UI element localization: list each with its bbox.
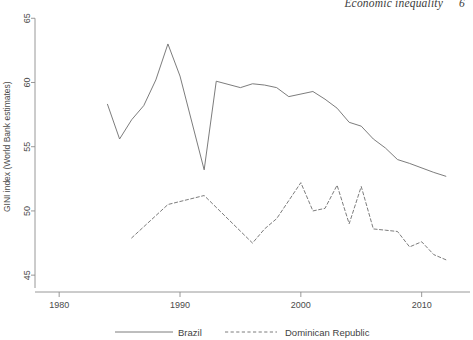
line-chart: 4550556065 1980199020002010 GINI index (… bbox=[0, 0, 473, 340]
legend-label-brazil: Brazil bbox=[178, 327, 202, 338]
series-line-brazil bbox=[108, 44, 446, 176]
x-tick-label: 1990 bbox=[170, 300, 190, 310]
chart-series bbox=[108, 44, 446, 260]
x-axis: 1980199020002010 bbox=[35, 292, 470, 310]
y-tick-label: 50 bbox=[22, 206, 32, 216]
y-axis-title-text: GINI index (World Bank estimates) bbox=[2, 81, 12, 212]
x-tick-label: 2000 bbox=[291, 300, 311, 310]
y-axis: 4550556065 bbox=[22, 13, 35, 288]
y-tick-label: 55 bbox=[22, 142, 32, 152]
legend-label-dominican-republic: Dominican Republic bbox=[285, 327, 370, 338]
chart-legend: BrazilDominican Republic bbox=[115, 327, 370, 338]
y-axis-title: GINI index (World Bank estimates) bbox=[2, 81, 12, 212]
y-tick-label: 60 bbox=[22, 77, 32, 87]
x-tick-label: 1980 bbox=[49, 300, 69, 310]
y-tick-label: 45 bbox=[22, 270, 32, 280]
y-tick-label: 65 bbox=[22, 13, 32, 23]
chart-page: Economic inequality6 4550556065 19801990… bbox=[0, 0, 473, 340]
series-line-dominican-republic bbox=[132, 183, 446, 260]
x-tick-label: 2010 bbox=[412, 300, 432, 310]
